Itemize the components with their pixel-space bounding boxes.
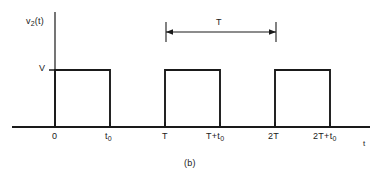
y-axis-label-tail: (t) — [35, 16, 44, 26]
x-tick-label-T-plus-t0: T+t0 — [206, 131, 224, 142]
amplitude-label: V — [39, 63, 45, 73]
period-arrowhead-right — [269, 29, 276, 35]
x-axis-label: t — [363, 139, 366, 148]
x-tick-label-0-main: 0 — [52, 131, 57, 141]
x-tick-label-0: 0 — [52, 131, 57, 142]
period-annotation-label: T — [216, 17, 222, 27]
x-tick-label-2T: 2T — [268, 131, 279, 142]
x-tick-label-2Tt0-main: 2T+t — [313, 131, 332, 141]
x-tick-label-2T-main: 2T — [268, 131, 279, 141]
x-tick-label-Tt0-sub: 0 — [220, 135, 224, 142]
x-tick-label-t0-sub: 0 — [108, 135, 112, 142]
x-tick-label-T-main: T — [162, 131, 168, 141]
waveform-figure: v2(t) V T 0 t0 T T+t0 2T 2T+t0 t (b) — [0, 0, 383, 179]
x-tick-label-t0: t0 — [105, 131, 112, 142]
y-axis-label: v2(t) — [26, 16, 44, 27]
figure-caption: (b) — [184, 158, 196, 168]
x-tick-label-T: T — [162, 131, 168, 142]
x-tick-label-2Tt0-sub: 0 — [332, 135, 336, 142]
period-arrowhead-left — [166, 29, 173, 35]
x-tick-label-Tt0-main: T+t — [206, 131, 220, 141]
pulse-train-waveform — [12, 70, 370, 127]
waveform-plot-svg — [0, 0, 383, 179]
x-tick-label-2T-plus-t0: 2T+t0 — [313, 131, 336, 142]
